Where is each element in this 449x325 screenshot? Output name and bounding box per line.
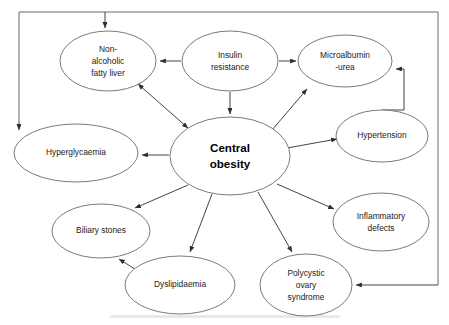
node-pcos-label-line2: ovary [296, 280, 317, 290]
node-hyperglycaemia[interactable]: Hyperglycaemia [14, 124, 138, 182]
node-biliary-stones-label: Biliary stones [76, 225, 126, 235]
node-biliary-stones[interactable]: Biliary stones [52, 204, 150, 258]
node-insulin-resistance-ellipse [182, 31, 278, 91]
node-polycystic-ovary-syndrome[interactable]: Polycystic ovary syndrome [260, 254, 352, 316]
diagram-canvas: Non- alcoholic fatty liver Insulin resis… [0, 0, 449, 325]
node-dyslipidaemia[interactable]: Dyslipidaemia [125, 256, 235, 314]
node-hyperglycaemia-label: Hyperglycaemia [46, 147, 106, 157]
node-inflammatory-defects-ellipse [333, 193, 429, 251]
node-insulin-resistance[interactable]: Insulin resistance [182, 31, 278, 91]
node-central-obesity-label-line2: obesity [210, 157, 251, 170]
node-central-obesity-ellipse [170, 117, 290, 195]
node-pcos-label-line1: Polycystic [287, 268, 324, 278]
node-hypertension[interactable]: Hypertension [336, 110, 428, 162]
node-nafl[interactable]: Non- alcoholic fatty liver [60, 31, 156, 91]
edge-central-obesity-to-microalbuminuria [272, 89, 307, 130]
node-insulin-resistance-label-line2: resistance [211, 62, 250, 72]
node-microalbuminuria-ellipse [298, 35, 392, 87]
node-microalbuminuria[interactable]: Microalbumin -urea [298, 35, 392, 87]
node-pcos-label-line3: syndrome [288, 292, 325, 302]
node-central-obesity[interactable]: Central obesity [170, 117, 290, 195]
node-inflammatory-defects[interactable]: Inflammatory defects [333, 193, 429, 251]
edge-central-obesity-to-biliary-stones [135, 185, 188, 208]
node-central-obesity-label-line1: Central [210, 141, 250, 154]
edge-central-obesity-to-inflammatory-defects [277, 184, 334, 209]
node-microalbuminuria-label-line1: Microalbumin [320, 50, 370, 60]
node-insulin-resistance-label-line1: Insulin [218, 50, 243, 60]
concept-map-diagram: Non- alcoholic fatty liver Insulin resis… [0, 0, 449, 325]
edge-nafl-central-obesity-bidirectional [138, 84, 188, 128]
node-microalbuminuria-label-line2: -urea [335, 62, 355, 72]
node-nafl-label-line1: Non- [99, 44, 117, 54]
edge-central-obesity-to-dyslipidaemia [190, 194, 212, 252]
node-inflammatory-defects-label-line2: defects [367, 223, 394, 233]
edge-central-obesity-to-hypertension [287, 139, 337, 148]
node-nafl-label-line2: alcoholic [92, 56, 125, 66]
edge-central-obesity-to-pcos [258, 192, 292, 252]
edge-hypertension-to-microalbuminuria [382, 69, 404, 110]
node-hypertension-label: Hypertension [357, 130, 407, 140]
node-dyslipidaemia-label: Dyslipidaemia [154, 279, 206, 289]
node-inflammatory-defects-label-line1: Inflammatory [357, 211, 406, 221]
node-nafl-label-line3: fatty liver [91, 68, 125, 78]
